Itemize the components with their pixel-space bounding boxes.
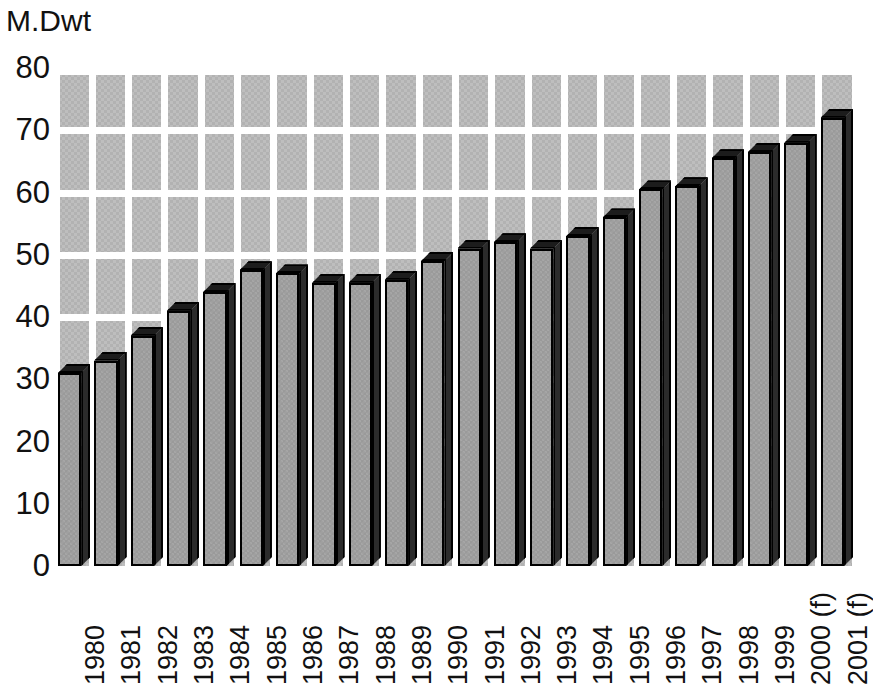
bar-side-face [118, 352, 127, 566]
bar-side-face [517, 233, 526, 566]
x-axis-tick-label-slot: 1992 [494, 572, 524, 687]
x-axis-tick-label-slot: 1988 [349, 572, 379, 687]
y-axis-tick-label: 50 [2, 239, 50, 270]
x-axis-tick-label-slot: 1983 [167, 572, 197, 687]
bar-side-face [844, 109, 853, 566]
bar-front-face [458, 249, 481, 566]
x-axis-tick-label-slot: 1995 [603, 572, 633, 687]
bar [240, 261, 263, 566]
x-axis-tick-label-slot: 1991 [458, 572, 488, 687]
y-axis-tick-label: 10 [2, 488, 50, 519]
x-axis-tick-label-slot: 1998 [712, 572, 742, 687]
bar [421, 252, 444, 566]
bar-side-face [408, 271, 417, 566]
y-axis-tick-label: 60 [2, 177, 50, 208]
x-axis-tick-label-slot: 2001 (f) [821, 572, 851, 687]
x-axis-tick-label: 2001 (f) [845, 592, 872, 685]
bar-side-face [808, 134, 817, 566]
y-axis-tick-label: 20 [2, 426, 50, 457]
bar-side-face [444, 252, 453, 566]
bar [675, 177, 698, 566]
bar [58, 364, 81, 566]
x-axis-tick-label-slot: 1986 [276, 572, 306, 687]
x-axis-tick-label-slot: 1980 [58, 572, 88, 687]
y-axis-tick-label: 40 [2, 301, 50, 332]
bar-front-face [675, 186, 698, 566]
bar-front-face [94, 361, 117, 566]
bar-side-face [263, 261, 272, 566]
x-axis-tick-label-slot: 1994 [566, 572, 596, 687]
x-axis-tick-label-slot: 1981 [94, 572, 124, 687]
bar-front-face [58, 373, 81, 566]
bar-front-face [312, 283, 335, 566]
bar-side-face [372, 274, 381, 566]
bar-side-face [154, 327, 163, 566]
bar-front-face [603, 217, 626, 566]
bar [276, 264, 299, 566]
bar-front-face [349, 283, 372, 566]
bar [167, 302, 190, 566]
bar [639, 180, 662, 566]
bar-side-face [81, 364, 90, 566]
bar-front-face [385, 280, 408, 566]
x-axis-tick-label-slot: 1993 [530, 572, 560, 687]
y-axis-tick-label: 70 [2, 114, 50, 145]
bar-front-face [203, 292, 226, 566]
bar-front-face [712, 158, 735, 566]
bar [312, 274, 335, 566]
y-axis-tick-label: 0 [2, 550, 50, 581]
y-axis-tick-label: 80 [2, 52, 50, 83]
bar-side-face [336, 274, 345, 566]
x-axis-tick-label-slot: 1999 [748, 572, 778, 687]
bar-front-face [530, 249, 553, 566]
bar [603, 208, 626, 566]
bar-front-face [276, 273, 299, 566]
x-axis-tick-label-slot: 1997 [675, 572, 705, 687]
bar-side-face [699, 177, 708, 566]
bar [94, 352, 117, 566]
x-axis-tick-label-slot: 1989 [385, 572, 415, 687]
bar-front-face [494, 242, 517, 566]
bar-front-face [131, 336, 154, 566]
bar [349, 274, 372, 566]
bar [712, 149, 735, 566]
bar [748, 143, 771, 566]
x-axis-tick-label-slot: 1990 [421, 572, 451, 687]
bar [821, 109, 844, 566]
bar-side-face [662, 180, 671, 566]
bar-front-face [240, 270, 263, 566]
x-axis-tick-label-slot: 1982 [131, 572, 161, 687]
y-axis-tick-label: 30 [2, 363, 50, 394]
x-axis-tick-label-slot: 1996 [639, 572, 669, 687]
x-axis-tick-label-slot: 1984 [203, 572, 233, 687]
bar-front-face [784, 143, 807, 566]
bar-front-face [421, 261, 444, 566]
bar-side-face [626, 208, 635, 566]
bar-front-face [639, 189, 662, 566]
x-axis-tick-label-slot: 2000 (f) [784, 572, 814, 687]
bar [530, 240, 553, 566]
bar-side-face [481, 240, 490, 566]
bar [784, 134, 807, 566]
bar [494, 233, 517, 566]
bar-side-face [227, 283, 236, 566]
bar [131, 327, 154, 566]
bar-side-face [553, 240, 562, 566]
bar-front-face [566, 236, 589, 566]
bar-front-face [748, 152, 771, 566]
bar-side-face [190, 302, 199, 566]
bar-side-face [771, 143, 780, 566]
x-axis-tick-label-slot: 1987 [312, 572, 342, 687]
bar-side-face [735, 149, 744, 566]
bar [458, 240, 481, 566]
bar-side-face [299, 264, 308, 566]
bar [566, 227, 589, 566]
bar-front-face [167, 311, 190, 566]
bar-front-face [821, 118, 844, 566]
x-axis-tick-label-slot: 1985 [240, 572, 270, 687]
x-axis-tick-labels: 1980198119821983198419851986198719881989… [56, 566, 855, 687]
plot-area [56, 68, 855, 566]
bar-side-face [590, 227, 599, 566]
bar [385, 271, 408, 566]
